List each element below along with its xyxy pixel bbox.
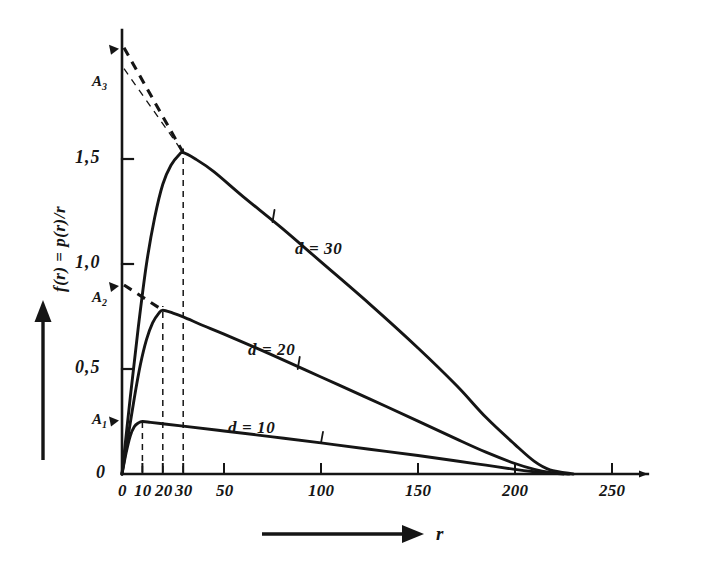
curve-d20 xyxy=(122,310,569,474)
dashed-asymptote-lines xyxy=(124,48,183,311)
y-tick-label-1-5: 1,5 xyxy=(75,148,101,166)
x-axis-caption-arrow-icon xyxy=(262,525,424,543)
asymptote-arrow-a2-icon xyxy=(109,282,119,292)
x-tick-label-30: 30 xyxy=(175,482,193,499)
y-axis-caption-arrow-icon xyxy=(35,300,52,460)
asymptote-arrow-a1-icon xyxy=(109,416,119,426)
curve-label-d20: d = 20 xyxy=(248,341,295,358)
asymptote-label-a3: A3 xyxy=(92,74,107,92)
curve-label-d30: d = 30 xyxy=(295,240,342,257)
asymptote-label-a2: A2 xyxy=(92,290,107,308)
asymptote-arrow-icons xyxy=(109,45,119,427)
x-tick-label-50: 50 xyxy=(216,482,234,499)
x-tick-label-20: 20 xyxy=(155,482,173,499)
asymptote-label-a1: A1 xyxy=(92,412,107,430)
x-tick-label-250: 250 xyxy=(599,482,625,499)
data-curves xyxy=(122,152,573,474)
chart-figure: f(r) = p(r)/r r 010203050100150200250 00… xyxy=(0,0,704,569)
y-axis-ticks xyxy=(122,159,133,369)
curve-label-d10: d = 10 xyxy=(228,419,275,436)
y-tick-label-0: 0 xyxy=(96,463,106,481)
x-tick-label-100: 100 xyxy=(308,482,334,499)
x-tick-label-200: 200 xyxy=(502,482,528,499)
y-axis-label: f(r) = p(r)/r xyxy=(50,206,70,292)
x-tick-label-10: 10 xyxy=(134,482,152,499)
asymptote-arrow-a3-icon xyxy=(109,45,119,55)
y-tick-label-1-0: 1,0 xyxy=(75,253,101,271)
x-axis-arrowhead-icon xyxy=(639,471,648,478)
x-tick-label-0: 0 xyxy=(118,482,127,499)
x-axis-label: r xyxy=(436,524,443,543)
y-tick-label-0-5: 0,5 xyxy=(75,358,101,376)
x-tick-label-150: 150 xyxy=(405,482,431,499)
